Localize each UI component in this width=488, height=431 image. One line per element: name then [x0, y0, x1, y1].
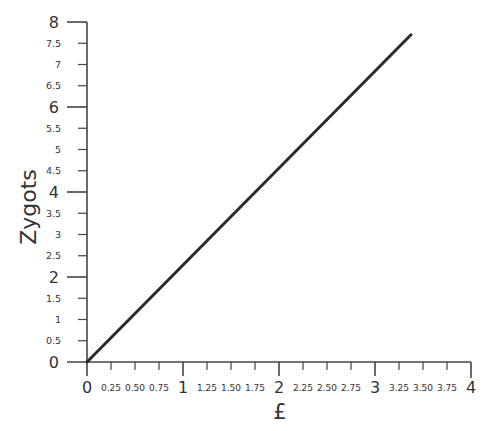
y-minor-tick-label: 1.5	[46, 293, 61, 304]
y-major-tick-label: 0	[49, 353, 59, 372]
y-minor-tick-label: 1	[55, 314, 61, 325]
y-minor-tick-label: 7.5	[46, 38, 61, 49]
y-minor-tick-label: 7	[55, 59, 61, 70]
x-minor-tick-label: 3.25	[389, 383, 409, 393]
x-minor-tick-label: 2.25	[293, 383, 313, 393]
x-minor-tick-label: 0.25	[101, 383, 121, 393]
y-minor-tick-label: 3.5	[46, 208, 61, 219]
x-major-tick-label: 4	[466, 378, 476, 397]
x-minor-tick-label: 3.50	[413, 383, 433, 393]
x-minor-tick-label: 1.75	[245, 383, 265, 393]
x-major-tick-label: 3	[370, 378, 380, 397]
y-minor-tick-label: 5.5	[46, 123, 61, 134]
x-major-tick-label: 1	[178, 378, 188, 397]
y-major-tick-label: 4	[49, 183, 59, 202]
y-minor-tick-label: 5	[55, 144, 61, 155]
x-minor-tick-label: 1.50	[221, 383, 241, 393]
y-major-tick-label: 8	[49, 13, 59, 32]
x-axis-label: £	[273, 400, 286, 424]
x-axis: 012340.250.500.751.251.501.752.252.502.7…	[67, 362, 476, 397]
y-minor-tick-label: 0.5	[46, 335, 61, 346]
x-minor-tick-label: 3.75	[437, 383, 457, 393]
y-axis: 024680.511.52.533.54.555.56.577.5	[46, 13, 87, 376]
y-major-tick-label: 6	[49, 98, 59, 117]
x-major-tick-label: 0	[82, 378, 92, 397]
x-minor-tick-label: 2.50	[317, 383, 337, 393]
data-line	[87, 35, 411, 362]
y-major-tick-label: 2	[49, 268, 59, 287]
x-minor-tick-label: 0.75	[149, 383, 169, 393]
x-minor-tick-label: 0.50	[125, 383, 145, 393]
y-minor-tick-label: 6.5	[46, 80, 61, 91]
x-minor-tick-label: 2.75	[341, 383, 361, 393]
y-minor-tick-label: 2.5	[46, 250, 61, 261]
y-minor-tick-label: 3	[55, 229, 61, 240]
plot-area	[87, 35, 411, 362]
y-axis-label: Zygots	[16, 169, 41, 245]
line-chart: 024680.511.52.533.54.555.56.577.5 012340…	[0, 0, 488, 431]
x-major-tick-label: 2	[274, 378, 284, 397]
y-minor-tick-label: 4.5	[46, 165, 61, 176]
x-minor-tick-label: 1.25	[197, 383, 217, 393]
